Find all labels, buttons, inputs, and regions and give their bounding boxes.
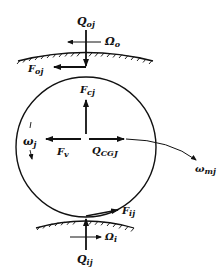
label-f-oj: Foj (27, 63, 43, 76)
outer-race (17, 53, 153, 65)
label-omega-i: Ωi (104, 231, 117, 244)
label-q-cgj: QCGJ (92, 145, 119, 158)
omega-mj-arrow (126, 139, 196, 160)
label-q-oj: Qoj (77, 15, 95, 29)
label-f-ij: Fij (121, 205, 135, 218)
label-omega-j: ωj (23, 135, 36, 149)
free-body-diagram: Qoj Ωo Foj Fcj Fv QCGJ ωj ωmj Fij (0, 0, 224, 271)
label-q-ij: Qij (77, 253, 93, 267)
label-omega-o: Ωo (104, 35, 121, 49)
inner-race (36, 221, 134, 232)
rolling-ball (16, 77, 156, 217)
label-f-v: Fv (56, 146, 69, 159)
label-f-cj: Fcj (79, 84, 95, 97)
label-omega-mj: ωmj (195, 163, 216, 176)
